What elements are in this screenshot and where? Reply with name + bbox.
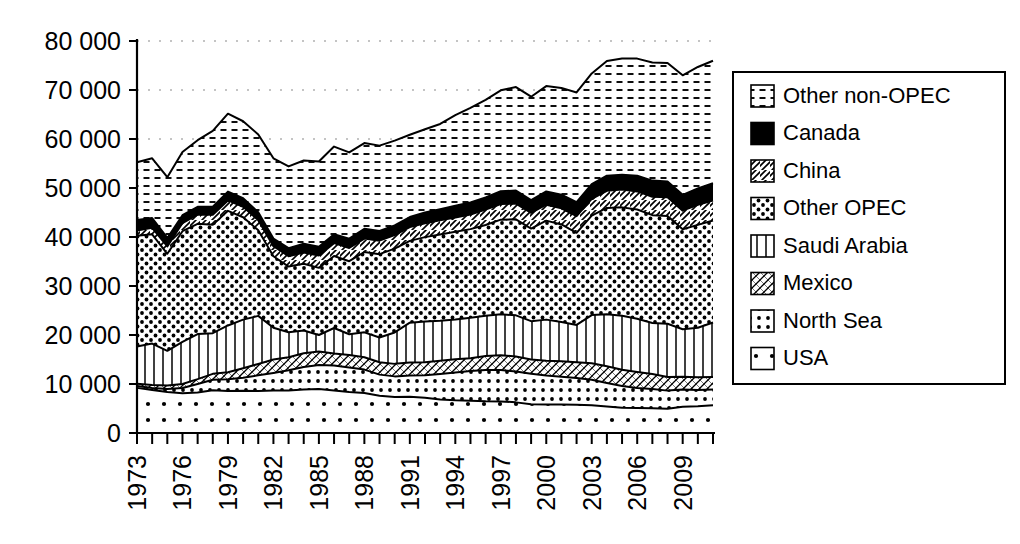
legend-label: Other non-OPEC (783, 83, 951, 108)
legend-item-canada[interactable]: Canada (751, 120, 861, 145)
y-tick-label: 50 000 (45, 174, 121, 202)
legend-swatch-vertical-lines-icon (751, 235, 774, 257)
x-axis (129, 433, 715, 444)
y-tick-label: 10 000 (45, 370, 121, 398)
legend-label: Canada (783, 120, 861, 145)
legend-swatch-diagonal-cross-icon (751, 273, 774, 295)
y-tick-label: 20 000 (45, 321, 121, 349)
y-tick-label: 40 000 (45, 223, 121, 251)
legend-swatch-diagonal-hatch-icon (751, 160, 774, 182)
area-bands (137, 59, 713, 433)
legend-label: North Sea (783, 308, 883, 333)
legend-swatch-horizontal-dashes-icon (751, 85, 774, 107)
legend-label: USA (783, 345, 829, 370)
legend-item-other-opec[interactable]: Other OPEC (751, 195, 907, 220)
x-tick-label: 1985 (305, 455, 333, 511)
legend-label: Other OPEC (783, 195, 907, 220)
legend-swatch-dots-in-box-icon (751, 310, 774, 332)
chart-legend[interactable]: Other non-OPECCanadaChinaOther OPECSaudi… (733, 72, 1005, 384)
legend-label: China (783, 158, 841, 183)
y-axis (129, 39, 137, 433)
x-tick-label: 2009 (669, 455, 697, 511)
y-tick-labels: 010 00020 00030 00040 00050 00060 00070 … (45, 27, 121, 447)
y-tick-label: 70 000 (45, 76, 121, 104)
legend-box (733, 72, 1005, 384)
legend-swatch-solid-black-icon (751, 123, 774, 145)
legend-item-china[interactable]: China (751, 158, 841, 183)
y-tick-label: 80 000 (45, 27, 121, 55)
y-tick-label: 30 000 (45, 272, 121, 300)
x-tick-label: 1997 (487, 455, 515, 511)
x-tick-labels: 1973197619791982198519881991199419972000… (123, 455, 697, 511)
chart-root: 010 00020 00030 00040 00050 00060 00070 … (0, 0, 1020, 544)
y-tick-label: 60 000 (45, 125, 121, 153)
x-tick-label: 1991 (396, 455, 424, 511)
x-tick-label: 1979 (214, 455, 242, 511)
legend-label: Saudi Arabia (783, 233, 909, 258)
x-tick-label: 1988 (350, 455, 378, 511)
x-tick-label: 1982 (259, 455, 287, 511)
y-tick-label: 0 (107, 419, 121, 447)
legend-item-saudi-arabia[interactable]: Saudi Arabia (751, 233, 909, 258)
stacked-area-chart: 010 00020 00030 00040 00050 00060 00070 … (0, 0, 1020, 544)
x-tick-label: 1976 (168, 455, 196, 511)
x-tick-label: 1973 (123, 455, 151, 511)
legend-item-mexico[interactable]: Mexico (751, 270, 853, 295)
x-tick-label: 2000 (532, 455, 560, 511)
legend-item-north-sea[interactable]: North Sea (751, 308, 883, 333)
x-tick-label: 2006 (623, 455, 651, 511)
x-tick-label: 2003 (578, 455, 606, 511)
x-tick-label: 1994 (441, 455, 469, 511)
legend-item-usa[interactable]: USA (751, 345, 829, 370)
legend-swatch-sparse-dots-icon (751, 348, 774, 370)
legend-swatch-dense-dots-icon (751, 198, 774, 220)
legend-label: Mexico (783, 270, 853, 295)
